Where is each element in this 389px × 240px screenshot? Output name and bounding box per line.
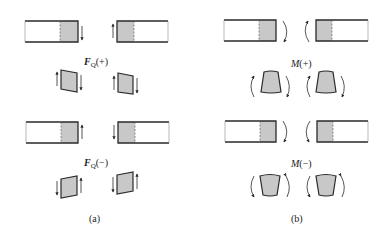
curved-arrow-clockwise-icon: [283, 121, 287, 142]
curved-arrow-icon: [341, 76, 344, 97]
moment-positive-element-right: [307, 71, 344, 97]
panel-b-caption: (b): [291, 213, 303, 224]
curved-arrow-icon: [251, 176, 254, 197]
shear-negative-right-beam: [114, 122, 169, 143]
shear-negative-label: FQ(−): [84, 157, 108, 168]
moment-positive-right-beam: [305, 20, 368, 42]
curved-arrow-icon: [341, 176, 344, 197]
diagram-canvas: [0, 0, 389, 240]
curved-arrow-icon: [251, 76, 254, 97]
curved-arrow-icon: [307, 176, 310, 197]
shear-positive-left-beam: [25, 21, 82, 42]
shear-positive-right-beam: [113, 21, 168, 42]
moment-negative-left-beam: [225, 121, 287, 142]
moment-negative-element-left: [251, 175, 289, 198]
moment-positive-element-left: [251, 71, 289, 97]
curved-arrow-counterclockwise-icon: [305, 21, 309, 42]
curved-arrow-counterclockwise-icon: [306, 121, 310, 142]
shear-negative-left-beam: [26, 122, 82, 143]
moment-positive-label: M(+): [291, 58, 312, 69]
curved-arrow-clockwise-icon: [283, 21, 287, 42]
shear-positive-label: FQ(+): [84, 56, 108, 67]
shear-positive-element-right: [114, 73, 137, 94]
moment-positive-left-beam: [224, 20, 287, 42]
moment-negative-right-beam: [306, 121, 368, 142]
curved-arrow-icon: [286, 76, 289, 97]
moment-negative-label: M(−): [291, 158, 312, 169]
curved-arrow-icon: [286, 176, 289, 197]
shear-negative-element-right: [113, 172, 137, 194]
moment-negative-element-right: [307, 175, 344, 198]
curved-arrow-icon: [307, 76, 310, 97]
shear-positive-element-left: [57, 70, 81, 92]
panel-a-caption: (a): [89, 213, 100, 224]
shear-negative-element-left: [57, 176, 81, 198]
